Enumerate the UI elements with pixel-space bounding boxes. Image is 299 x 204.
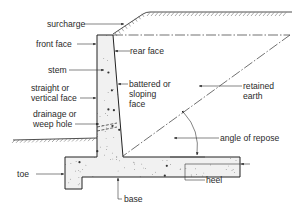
hatch-mark <box>259 13 262 17</box>
aggregate-dot <box>82 169 83 170</box>
label-angle-of-repose: angle of repose <box>220 133 279 143</box>
aggregate-dot <box>113 137 114 138</box>
aggregate-dot <box>106 138 107 139</box>
aggregate-dot <box>203 173 204 174</box>
aggregate-dot <box>105 113 106 114</box>
hatch-mark <box>191 13 194 17</box>
aggregate-dot <box>71 163 72 164</box>
hatch-mark <box>223 13 226 17</box>
aggregate-dot <box>68 182 69 183</box>
aggregate-dot <box>155 172 156 173</box>
retaining-wall-diagram: surcharge front face rear face stem stra… <box>0 0 299 204</box>
hatch-mark <box>267 13 270 17</box>
hatch-mark <box>171 13 174 17</box>
hatch-mark <box>251 13 254 17</box>
hatch-mark <box>167 13 170 17</box>
aggregate-dot <box>78 161 80 163</box>
hatch-mark <box>159 13 162 17</box>
aggregate-dot <box>228 166 229 167</box>
aggregate-dot <box>97 136 98 137</box>
aggregate-dot <box>70 179 71 180</box>
aggregate-dot <box>107 108 109 110</box>
aggregate-dot <box>112 159 113 160</box>
aggregate-dot <box>86 165 87 166</box>
aggregate-dot <box>100 116 101 117</box>
aggregate-dot <box>78 184 79 185</box>
aggregate-dot <box>202 176 203 177</box>
hatch-mark <box>151 13 154 17</box>
aggregate-dot <box>78 170 79 171</box>
aggregate-dot <box>117 94 118 95</box>
label-heel: heel <box>206 175 222 185</box>
label-front-face: front face <box>36 39 72 49</box>
aggregate-dot <box>116 159 117 160</box>
aggregate-dot <box>196 174 197 175</box>
hatch-mark <box>179 13 182 17</box>
aggregate-dot <box>140 176 141 177</box>
aggregate-dot <box>106 35 107 36</box>
aggregate-dot <box>111 89 113 91</box>
aggregate-dot <box>180 169 181 170</box>
hatch-mark <box>118 31 120 34</box>
aggregate-dot <box>164 175 166 177</box>
aggregate-dot <box>107 115 108 116</box>
hatch-mark <box>219 13 222 17</box>
hatch-mark <box>135 19 137 22</box>
hatch-mark <box>155 13 158 17</box>
aggregate-dot <box>195 168 196 169</box>
aggregate-dot <box>118 171 119 172</box>
aggregate-dot <box>124 167 125 168</box>
hatch-mark <box>255 13 258 17</box>
aggregate-dot <box>226 169 227 170</box>
aggregate-dot <box>94 157 95 158</box>
hatch-mark <box>203 13 206 17</box>
hatch-mark <box>122 28 124 31</box>
aggregate-dot <box>233 169 234 170</box>
hatch-mark <box>231 13 234 17</box>
base-leader <box>118 178 122 199</box>
label-drainage-2: weep hole <box>32 119 72 129</box>
aggregate-dot <box>97 134 98 135</box>
aggregate-dot <box>232 170 233 171</box>
hatch-mark <box>199 13 202 17</box>
aggregate-dot <box>191 176 192 177</box>
aggregate-dot <box>65 164 66 165</box>
hatch-mark <box>263 13 266 17</box>
label-battered-1: battered or <box>129 79 171 89</box>
hatch-mark <box>207 13 210 17</box>
aggregate-dot <box>236 160 237 161</box>
aggregate-dot <box>180 169 181 170</box>
hatch-mark <box>132 21 134 24</box>
aggregate-dot <box>106 128 107 129</box>
aggregate-dot <box>104 155 105 156</box>
aggregate-dot <box>107 146 108 147</box>
aggregate-dot <box>107 60 108 61</box>
aggregate-dot <box>96 150 98 152</box>
hatch-mark <box>128 23 130 26</box>
aggregate-dot <box>116 157 117 158</box>
hatch-mark <box>283 13 286 17</box>
hatch-mark <box>195 13 198 17</box>
aggregate-dot <box>113 109 115 111</box>
aggregate-dot <box>113 89 114 90</box>
hatch-mark <box>12 140 15 143</box>
hatch-mark <box>147 13 150 17</box>
label-rear-face: rear face <box>130 46 164 56</box>
aggregate-dot <box>103 58 104 59</box>
aggregate-dot <box>145 168 146 169</box>
front-ground-line <box>12 138 97 143</box>
aggregate-dot <box>105 131 106 132</box>
aggregate-dot <box>162 160 163 161</box>
aggregate-dot <box>79 183 80 184</box>
hatch-mark <box>215 13 218 17</box>
aggregate-dot <box>170 164 171 165</box>
hatch-mark <box>275 13 278 17</box>
hatch-mark <box>243 13 246 17</box>
hatch-mark <box>211 13 214 17</box>
hatch-mark <box>125 26 127 29</box>
label-base: base <box>124 194 143 204</box>
hatch-mark <box>115 33 117 36</box>
aggregate-dot <box>191 175 192 176</box>
aggregate-dot <box>76 161 77 162</box>
hatch-mark <box>183 13 186 17</box>
